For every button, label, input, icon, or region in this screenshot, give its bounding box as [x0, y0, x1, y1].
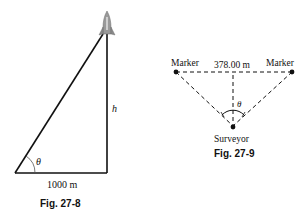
diagram-canvas: θ h 1000 m Fig. 27-8 Marker Marker 378.0…	[0, 0, 308, 209]
figure-27-8: θ h 1000 m Fig. 27-8	[15, 11, 117, 209]
figure-caption: Fig. 27-9	[214, 148, 255, 159]
theta-label: θ	[36, 156, 41, 167]
right-marker-point	[290, 70, 295, 75]
height-label: h	[112, 103, 117, 114]
hypotenuse-line	[15, 34, 103, 173]
surveyor-point	[231, 125, 236, 130]
left-sightline	[176, 72, 233, 126]
figure-27-9: Marker Marker 378.00 m θ Surveyor Fig. 2…	[171, 58, 295, 159]
surveyor-label: Surveyor	[214, 134, 250, 144]
right-sightline	[233, 72, 292, 126]
left-marker-label: Marker	[171, 58, 200, 68]
base-label: 1000 m	[47, 179, 78, 190]
figure-caption: Fig. 27-8	[40, 198, 81, 209]
right-marker-label: Marker	[266, 58, 295, 68]
left-marker-point	[174, 70, 179, 75]
rocket-icon	[99, 11, 115, 35]
theta-label: θ	[237, 99, 242, 109]
distance-label: 378.00 m	[214, 60, 251, 70]
angle-arc	[26, 156, 35, 173]
